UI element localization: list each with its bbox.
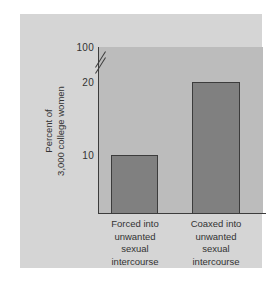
bar-forced (111, 155, 158, 214)
figure-panel: 100 20 10 Percent of 3,000 college women… (20, 14, 262, 268)
y-tick-label-100: 100 (76, 42, 94, 53)
x-label-coaxed-line-4: intercourse (168, 256, 264, 269)
y-tick-label-10: 10 (82, 150, 94, 161)
x-label-coaxed-line-2: unwanted (168, 231, 264, 244)
bar-coaxed (192, 82, 240, 214)
x-label-coaxed-line-3: sexual (168, 243, 264, 256)
chart-figure: 100 20 10 Percent of 3,000 college women… (0, 0, 280, 286)
y-axis-title-line-1: Percent of (43, 109, 54, 152)
y-axis-title: Percent of 3,000 college women (42, 66, 66, 196)
y-tick-label-20: 20 (82, 77, 94, 88)
x-label-coaxed-line-1: Coaxed into (168, 218, 264, 231)
x-category-label-coaxed: Coaxed into unwanted sexual intercourse (168, 218, 264, 268)
y-axis-line (98, 47, 99, 214)
y-axis-title-line-2: 3,000 college women (55, 86, 66, 176)
